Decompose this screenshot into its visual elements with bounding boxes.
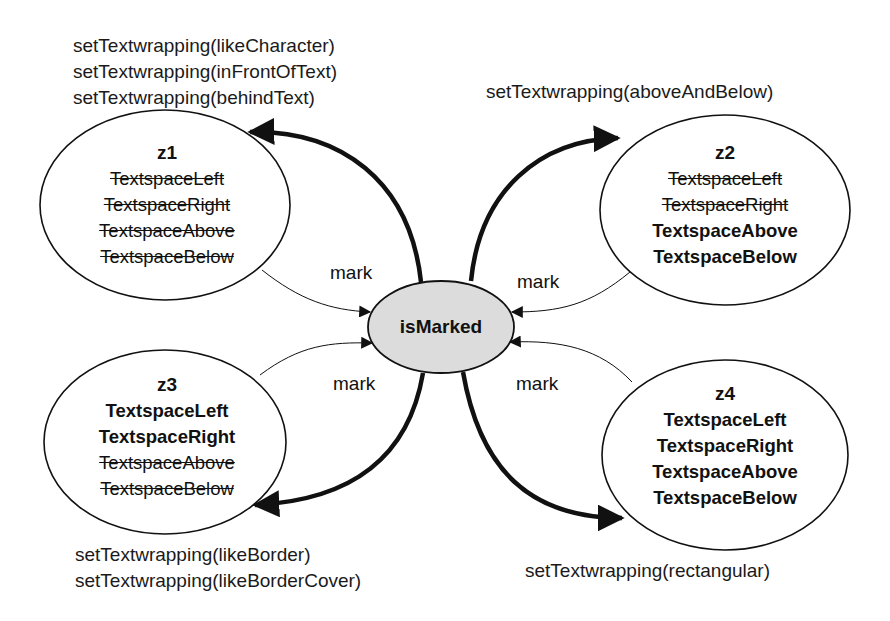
property-textspace-below: TextspaceBelow (652, 485, 798, 511)
property-textspace-right: TextspaceRight (652, 433, 798, 459)
mark-label-z2: mark (517, 271, 559, 293)
state-title: z3 (99, 372, 235, 398)
state-title: z1 (99, 140, 235, 166)
property-textspace-above: TextspaceAbove (652, 218, 798, 244)
property-textspace-above: TextspaceAbove (99, 450, 235, 476)
state-z2-content: z2 TextspaceLeft TextspaceRight Textspac… (652, 140, 798, 270)
property-textspace-right: TextspaceRight (99, 424, 235, 450)
action-label: setTextwrapping(aboveAndBelow) (486, 79, 773, 105)
property-textspace-right: TextspaceRight (652, 192, 798, 218)
actions-z3: setTextwrapping(likeBorder) setTextwrapp… (75, 542, 361, 594)
state-z1-content: z1 TextspaceLeft TextspaceRight Textspac… (99, 140, 235, 270)
property-textspace-above: TextspaceAbove (652, 459, 798, 485)
property-textspace-left: TextspaceLeft (99, 166, 235, 192)
action-label: setTextwrapping(rectangular) (525, 558, 770, 584)
property-textspace-left: TextspaceLeft (99, 398, 235, 424)
action-label: setTextwrapping(likeBorderCover) (75, 568, 361, 594)
property-textspace-right: TextspaceRight (99, 192, 235, 218)
actions-z4: setTextwrapping(rectangular) (525, 558, 770, 584)
actions-z2: setTextwrapping(aboveAndBelow) (486, 79, 773, 105)
property-textspace-below: TextspaceBelow (99, 476, 235, 502)
property-textspace-above: TextspaceAbove (99, 218, 235, 244)
mark-label-z1: mark (330, 262, 372, 284)
property-textspace-below: TextspaceBelow (652, 244, 798, 270)
property-textspace-below: TextspaceBelow (99, 244, 235, 270)
mark-label-z4: mark (516, 373, 558, 395)
is-marked-label: isMarked (400, 316, 482, 338)
state-z3-content: z3 TextspaceLeft TextspaceRight Textspac… (99, 372, 235, 502)
edge-ismarked-to-z2 (471, 138, 618, 281)
state-title: z4 (652, 381, 798, 407)
state-title: z2 (652, 140, 798, 166)
property-textspace-left: TextspaceLeft (652, 407, 798, 433)
state-z4-content: z4 TextspaceLeft TextspaceRight Textspac… (652, 381, 798, 511)
action-label: setTextwrapping(likeCharacter) (73, 33, 337, 59)
action-label: setTextwrapping(behindText) (73, 85, 337, 111)
action-label: setTextwrapping(likeBorder) (75, 542, 361, 568)
property-textspace-left: TextspaceLeft (652, 166, 798, 192)
edge-z3-to-ismarked (260, 343, 372, 375)
mark-label-z3: mark (333, 373, 375, 395)
action-label: setTextwrapping(inFrontOfText) (73, 59, 337, 85)
actions-z1: setTextwrapping(likeCharacter) setTextwr… (73, 33, 337, 111)
